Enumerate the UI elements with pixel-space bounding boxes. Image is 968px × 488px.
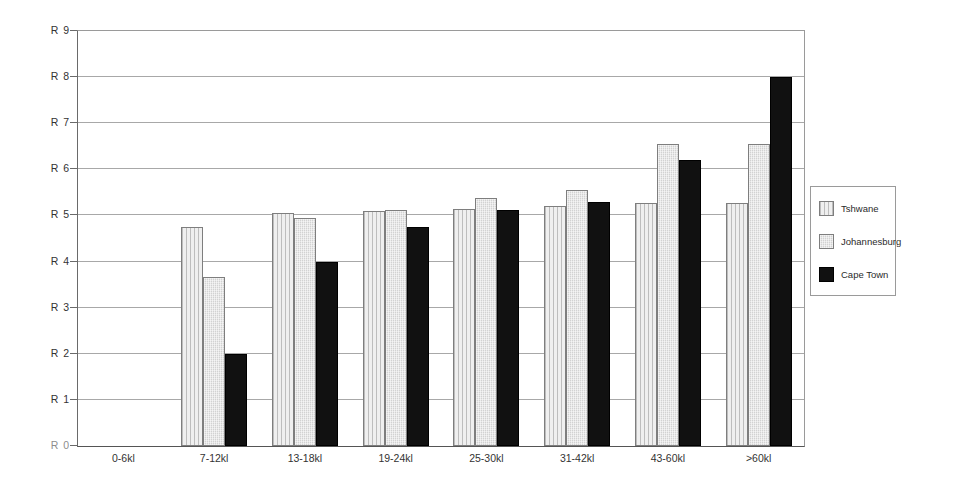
y-tick-label: R 3 — [14, 302, 70, 312]
bar-capetown — [679, 160, 701, 446]
bar-chart: R 0R 1R 2R 3R 4R 5R 6R 7R 8R 9 0-6kl7-12… — [0, 0, 968, 488]
bar-group — [532, 31, 623, 446]
legend-label: Tshwane — [841, 203, 879, 214]
bar-tshwane — [544, 206, 566, 446]
legend-item-johannesburg[interactable]: Johannesburg — [819, 234, 901, 249]
legend-swatch-icon — [819, 201, 834, 216]
bar-group — [441, 31, 532, 446]
x-tick-label: 43-60kl — [623, 452, 714, 464]
bar-tshwane — [726, 203, 748, 446]
bar-capetown — [316, 262, 338, 446]
bar-capetown — [407, 227, 429, 446]
bar-tshwane — [272, 213, 294, 446]
bar-group — [260, 31, 351, 446]
y-tick-mark — [70, 168, 77, 169]
y-tick-label: R 9 — [14, 25, 70, 35]
bar-johannesburg — [203, 277, 225, 446]
y-tick-label: R 6 — [14, 163, 70, 173]
x-tick-label: >60kl — [713, 452, 804, 464]
bar-johannesburg — [294, 218, 316, 446]
y-tick-mark — [70, 353, 77, 354]
y-tick-label: R 8 — [14, 71, 70, 81]
y-tick-label: R 4 — [14, 256, 70, 266]
x-tick-label: 25-30kl — [441, 452, 532, 464]
bar-capetown — [588, 202, 610, 446]
x-tick-label: 7-12kl — [169, 452, 260, 464]
bar-johannesburg — [385, 210, 407, 446]
bar-group — [350, 31, 441, 446]
y-tick-mark — [70, 399, 77, 400]
bar-johannesburg — [475, 198, 497, 446]
x-axis: 0-6kl7-12kl13-18kl19-24kl25-30kl31-42kl4… — [78, 452, 804, 472]
y-tick-label: R 5 — [14, 209, 70, 219]
bar-capetown — [225, 354, 247, 446]
bar-capetown — [770, 77, 792, 446]
x-tick-label: 31-42kl — [532, 452, 623, 464]
x-tick-label: 0-6kl — [78, 452, 169, 464]
bar-johannesburg — [657, 144, 679, 446]
y-tick-mark — [70, 307, 77, 308]
bar-tshwane — [453, 209, 475, 446]
legend-item-capetown[interactable]: Cape Town — [819, 267, 888, 282]
y-tick-mark — [70, 214, 77, 215]
bar-group — [623, 31, 714, 446]
y-tick-mark — [70, 30, 77, 31]
y-tick-label: R 7 — [14, 117, 70, 127]
y-tick-label: R 2 — [14, 348, 70, 358]
legend-label: Johannesburg — [841, 236, 901, 247]
legend-swatch-icon — [819, 234, 834, 249]
bar-tshwane — [181, 227, 203, 446]
bar-johannesburg — [748, 144, 770, 446]
bar-group — [78, 31, 169, 446]
y-tick-mark — [70, 261, 77, 262]
bars-layer — [78, 31, 804, 446]
bar-group — [713, 31, 804, 446]
legend-item-tshwane[interactable]: Tshwane — [819, 201, 879, 216]
y-tick-mark — [70, 76, 77, 77]
x-tick-label: 13-18kl — [260, 452, 351, 464]
y-tick-label: R 0 — [14, 440, 70, 450]
bar-group — [169, 31, 260, 446]
y-axis: R 0R 1R 2R 3R 4R 5R 6R 7R 8R 9 — [0, 30, 70, 447]
y-tick-mark — [70, 445, 77, 446]
legend-label: Cape Town — [841, 269, 888, 280]
y-tick-mark — [70, 122, 77, 123]
bar-tshwane — [363, 211, 385, 446]
bar-capetown — [497, 210, 519, 446]
bar-tshwane — [635, 203, 657, 446]
chart-legend: TshwaneJohannesburgCape Town — [810, 186, 896, 296]
y-tick-label: R 1 — [14, 394, 70, 404]
bar-johannesburg — [566, 190, 588, 446]
legend-swatch-icon — [819, 267, 834, 282]
x-tick-label: 19-24kl — [350, 452, 441, 464]
